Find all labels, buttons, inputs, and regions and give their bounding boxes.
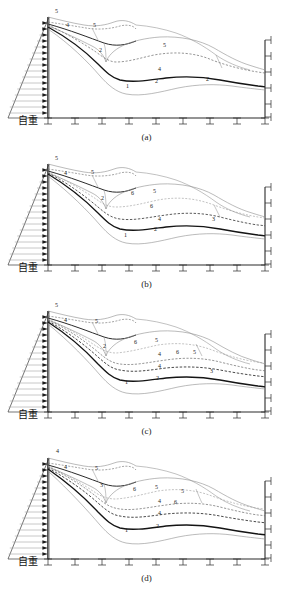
svg-text:5: 5 xyxy=(163,42,166,48)
svg-text:2: 2 xyxy=(101,195,104,201)
load-arrowheads-a xyxy=(42,21,47,115)
svg-text:4: 4 xyxy=(158,66,161,72)
base-supports-d xyxy=(44,559,269,565)
panel-caption-c: (c) xyxy=(0,426,293,436)
svg-text:5: 5 xyxy=(91,169,94,175)
deformation-curves-d xyxy=(48,458,265,544)
svg-text:5: 5 xyxy=(93,22,96,28)
panel-caption-b: (b) xyxy=(0,279,293,289)
svg-text:4: 4 xyxy=(56,448,59,454)
svg-text:5: 5 xyxy=(155,484,158,490)
load-arrowheads-b xyxy=(42,168,47,262)
deformation-curves-c xyxy=(48,311,265,394)
dead-load-label-b: 自重 xyxy=(18,263,38,273)
figure-panel-d: 4 4 5 3 6 5 5 6 4 4 1 2 自重 (d) xyxy=(0,441,293,588)
svg-text:6: 6 xyxy=(176,349,179,355)
svg-text:1: 1 xyxy=(126,83,129,89)
panel-caption-d: (d) xyxy=(0,573,293,583)
svg-text:2: 2 xyxy=(154,226,157,232)
svg-text:5: 5 xyxy=(55,302,58,308)
base-supports-a xyxy=(44,118,269,124)
wall-supports-a xyxy=(265,36,271,121)
svg-text:6: 6 xyxy=(174,499,177,505)
svg-text:3: 3 xyxy=(100,482,103,488)
base-supports-b xyxy=(44,265,269,271)
svg-text:5: 5 xyxy=(55,8,58,14)
load-arrowheads-d xyxy=(42,462,47,556)
svg-text:4: 4 xyxy=(158,363,161,369)
svg-text:4: 4 xyxy=(64,317,67,323)
dead-load-label-c: 自重 xyxy=(18,410,38,420)
svg-text:4: 4 xyxy=(64,464,67,470)
figure-panel-b: 5 4 5 2 6 5 6 4 1 2 3 自重 (b) xyxy=(0,147,293,294)
svg-text:1: 1 xyxy=(125,527,128,533)
svg-text:5: 5 xyxy=(153,188,156,194)
svg-text:3: 3 xyxy=(212,216,215,222)
figure-panel-c: 5 4 5 2 6 5 6 5 4 4 1 2 3 自重 (c) xyxy=(0,294,293,441)
load-triangle-d xyxy=(8,458,49,559)
svg-text:5: 5 xyxy=(55,155,58,161)
svg-text:4: 4 xyxy=(66,22,69,28)
svg-text:4: 4 xyxy=(158,498,161,504)
panel-b-drawing: 5 4 5 2 6 5 6 4 1 2 3 xyxy=(0,147,293,275)
dead-load-label-a: 自重 xyxy=(18,116,38,126)
figure-panel-a: 5 4 5 2 5 4 1 2 2 自重 (a) xyxy=(0,0,293,147)
svg-text:2: 2 xyxy=(156,375,159,381)
wall-supports-d xyxy=(265,477,271,562)
base-supports-c xyxy=(44,412,269,418)
load-triangle-b xyxy=(8,164,49,265)
panel-c-drawing: 5 4 5 2 6 5 6 5 4 4 1 2 3 xyxy=(0,294,293,422)
svg-text:1: 1 xyxy=(124,232,127,238)
svg-text:4: 4 xyxy=(158,216,161,222)
svg-text:5: 5 xyxy=(95,465,98,471)
svg-text:1: 1 xyxy=(125,379,128,385)
load-triangle-c xyxy=(8,311,49,412)
panel-a-drawing: 5 4 5 2 5 4 1 2 2 xyxy=(0,0,293,128)
svg-text:2: 2 xyxy=(155,78,158,84)
curve-number-labels-c: 5 4 5 2 6 5 6 5 4 4 1 2 3 xyxy=(55,302,213,385)
svg-text:3: 3 xyxy=(210,368,213,374)
panel-caption-a: (a) xyxy=(0,132,293,142)
svg-text:5: 5 xyxy=(193,349,196,355)
svg-text:6: 6 xyxy=(134,339,137,345)
svg-text:4: 4 xyxy=(64,170,67,176)
svg-text:4: 4 xyxy=(158,510,161,516)
svg-text:6: 6 xyxy=(133,486,136,492)
svg-text:2: 2 xyxy=(99,47,102,53)
base-and-wall-c xyxy=(48,334,265,412)
panel-d-drawing: 4 4 5 3 6 5 5 6 4 4 1 2 xyxy=(0,441,293,569)
svg-text:6: 6 xyxy=(131,190,134,196)
base-and-wall-d xyxy=(48,481,265,559)
wall-supports-c xyxy=(265,330,271,415)
svg-text:5: 5 xyxy=(155,337,158,343)
svg-text:6: 6 xyxy=(150,203,153,209)
svg-text:2: 2 xyxy=(206,76,209,82)
load-arrowheads-c xyxy=(42,315,47,409)
svg-text:5: 5 xyxy=(181,488,184,494)
load-triangle-a xyxy=(8,17,49,118)
svg-text:2: 2 xyxy=(156,523,159,529)
wall-supports-b xyxy=(265,183,271,268)
svg-text:4: 4 xyxy=(158,351,161,357)
svg-text:2: 2 xyxy=(103,343,106,349)
dead-load-label-d: 自重 xyxy=(18,557,38,567)
svg-text:5: 5 xyxy=(95,318,98,324)
